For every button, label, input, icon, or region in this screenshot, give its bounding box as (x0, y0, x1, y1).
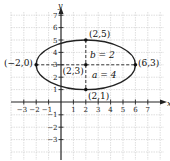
svg-text:−2: −2 (29, 106, 39, 114)
svg-text:7: 7 (146, 106, 150, 114)
svg-text:3: 3 (53, 61, 57, 69)
right-vertex-point (134, 63, 138, 67)
svg-text:6: 6 (133, 106, 138, 114)
right-vertex-label: (6,3) (138, 58, 159, 68)
left-vertex-point (34, 63, 38, 67)
svg-text:6: 6 (53, 24, 58, 32)
svg-text:2: 2 (84, 106, 88, 114)
y-axis-label: y (57, 1, 63, 10)
x-axis-label: x (167, 99, 170, 108)
svg-text:−3: −3 (17, 106, 27, 114)
left-vertex-label: (−2,0) (4, 58, 33, 68)
ellipse-chart: x y −3 −2 −1 1 2 3 4 5 6 7 (0, 0, 170, 161)
svg-text:−2: −2 (47, 124, 57, 132)
x-axis-arrow-icon (160, 100, 167, 105)
top-vertex-point (84, 38, 88, 42)
bottom-vertex-label: (2,1) (88, 91, 109, 101)
svg-text:1: 1 (53, 86, 57, 94)
x-tick-labels: −3 −2 −1 1 2 3 4 5 6 7 (17, 106, 150, 114)
svg-text:−3: −3 (47, 136, 57, 144)
axes (11, 10, 163, 160)
top-vertex-label: (2,5) (89, 29, 110, 39)
a-annotation: a = 4 (92, 70, 117, 80)
center-point (84, 63, 88, 67)
svg-text:4: 4 (108, 106, 113, 114)
svg-text:7: 7 (53, 12, 57, 20)
svg-text:4: 4 (53, 49, 58, 57)
svg-text:1: 1 (71, 106, 75, 114)
svg-text:5: 5 (53, 37, 57, 45)
svg-text:−1: −1 (47, 111, 57, 119)
svg-text:3: 3 (96, 106, 100, 114)
grid (11, 12, 164, 160)
svg-text:5: 5 (121, 106, 125, 114)
center-label: (2,3) (63, 66, 84, 76)
svg-text:2: 2 (53, 74, 57, 82)
b-annotation: b = 2 (90, 50, 115, 60)
